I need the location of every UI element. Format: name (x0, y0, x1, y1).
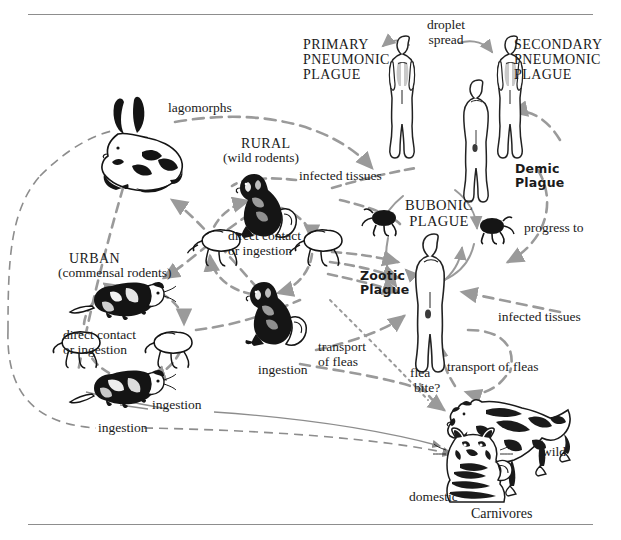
figure-canvas: droplet spread PRIMARY PNEUMONIC PLAGUE … (0, 0, 621, 540)
label-ingestion-upper: ingestion (152, 398, 202, 413)
label-rural-sub: (wild rodents) (223, 151, 299, 166)
label-demic-plague: Demic Plague (515, 162, 564, 189)
label-urban: URBAN (69, 251, 120, 266)
flea-icon (480, 217, 514, 244)
rat-icon (70, 282, 176, 320)
label-direct-contact-urban: direct contact or ingestion (63, 328, 136, 357)
human-figure-icon (416, 234, 445, 372)
label-transport-of-fleas-right: transport of fleas (447, 360, 538, 375)
label-wild: wild (542, 445, 566, 460)
label-ingestion-mid: ingestion (258, 363, 308, 378)
label-bubonic-plague: BUBONIC PLAGUE (396, 198, 482, 229)
label-urban-sub: (commensal rodents) (58, 266, 172, 281)
label-progress-to: progress to (524, 221, 584, 236)
label-ingestion-lower: ingestion (98, 421, 148, 436)
label-infected-tissues-right: infected tissues (498, 310, 581, 325)
human-figure-icon (390, 36, 415, 158)
label-primary-pneumonic-plague: PRIMARY PNEUMONIC PLAGUE (303, 37, 390, 82)
label-infected-tissues-rural: infected tissues (299, 169, 382, 184)
label-zootic-plague: Zootic Plague (360, 269, 409, 296)
label-flea-bite: flea bite? (410, 366, 440, 395)
label-rural: RURAL (241, 136, 290, 151)
label-carnivores: Carnivores (471, 506, 532, 521)
label-domestic: domestic (409, 490, 458, 505)
ground-squirrel-icon (245, 282, 306, 346)
flea-icon (362, 209, 396, 236)
human-figure-icon (464, 80, 489, 202)
label-droplet-spread: droplet spread (418, 18, 474, 47)
label-direct-contact-rural: direct contact or ingestion (228, 229, 301, 258)
flea-icon (145, 332, 192, 368)
label-lagomorphs: lagomorphs (168, 101, 232, 116)
label-transport-of-fleas-left: transport of fleas (318, 340, 366, 369)
label-secondary-pneumonic-plague: SECONDARY PNEUMONIC PLAGUE (514, 37, 602, 82)
